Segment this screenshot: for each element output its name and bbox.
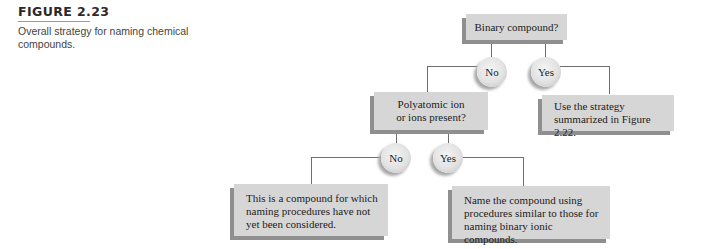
connector-yes-horizontal [560, 66, 610, 67]
connector-no-horizontal [427, 66, 477, 67]
yes-outcome-2-box: Name the compound using procedures simil… [452, 186, 610, 239]
connector-yes-down [609, 66, 610, 94]
root-yes-text: Yes [538, 66, 554, 78]
figure-label-rule [18, 21, 90, 22]
root-question-box: Binary compound? [466, 14, 567, 40]
second-no-text: No [389, 152, 402, 164]
second-yes-text: Yes [440, 152, 456, 164]
second-yes-node: Yes [433, 143, 463, 173]
yes-outcome-box: Use the strategy summarized in Figure 2.… [542, 95, 674, 131]
root-yes-node: Yes [531, 57, 561, 87]
root-question-text: Binary compound? [474, 21, 558, 34]
connector-no2-down [311, 157, 312, 184]
figure-label: FIGURE 2.23 [18, 4, 109, 19]
no-outcome-box: This is a compound for which naming proc… [234, 184, 388, 236]
connector-no2-horizontal [311, 157, 382, 158]
second-question-line2: or ions present? [396, 111, 466, 124]
root-no-node: No [477, 57, 507, 87]
no-outcome-text: This is a compound for which naming proc… [246, 192, 378, 230]
second-question-box: Polyatomic ion or ions present? [374, 92, 488, 130]
figure-caption: Overall strategy for naming chemical com… [18, 25, 218, 51]
second-question-line1: Polyatomic ion [398, 98, 465, 111]
connector-yes2-down [523, 157, 524, 186]
connector-no-down [427, 66, 428, 92]
yes-outcome-2-text: Name the compound using procedures simil… [464, 194, 598, 245]
second-no-node: No [381, 143, 411, 173]
yes-outcome-text: Use the strategy summarized in Figure 2.… [554, 100, 651, 138]
connector-yes2-horizontal [462, 157, 524, 158]
root-no-text: No [485, 66, 498, 78]
